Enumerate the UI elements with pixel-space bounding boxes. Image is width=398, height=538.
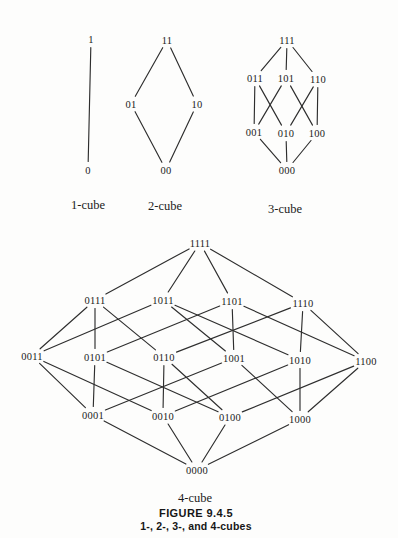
edge-1000-0000 [208, 425, 288, 465]
edge-1111-1110 [211, 249, 293, 297]
graph-1-cube: 101-cube [71, 34, 105, 212]
graph-2-cube: 110110002-cube [126, 35, 203, 213]
node-2-cube-10: 10 [192, 99, 203, 110]
edge-1011-0011 [44, 305, 151, 351]
edge-11-10 [171, 48, 194, 96]
node-4-cube-1000: 1000 [289, 414, 311, 425]
edge-1011-1001 [172, 307, 226, 351]
edge-11-01 [135, 48, 162, 97]
edge-10-00 [170, 112, 194, 162]
edge-011-001 [254, 87, 255, 124]
figure-title: 1-, 2-, 3-, and 4-cubes [0, 520, 395, 532]
node-4-cube-1111: 1111 [190, 238, 211, 249]
node-3-cube-011: 011 [247, 73, 263, 84]
edge-110-100 [317, 88, 318, 125]
figure-caption: FIGURE 9.4.5 1-, 2-, 3-, and 4-cubes [0, 507, 395, 532]
node-2-cube-00: 00 [161, 165, 172, 176]
node-3-cube-000: 000 [279, 165, 295, 176]
edge-01-00 [135, 112, 162, 163]
node-4-cube-1001: 1001 [223, 353, 245, 364]
node-4-cube-1010: 1010 [289, 355, 311, 366]
node-4-cube-0111: 0111 [84, 295, 105, 306]
edge-1001-1000 [242, 365, 292, 411]
edge-1101-1100 [244, 306, 354, 355]
edge-0101-0001 [93, 366, 94, 407]
node-3-cube-101: 101 [278, 73, 294, 84]
edge-0100-0000 [202, 425, 225, 462]
edge-1010-0010 [175, 365, 287, 411]
edge-1111-1011 [168, 251, 195, 292]
edge-111-011 [261, 47, 281, 70]
node-4-cube-0010: 0010 [152, 411, 174, 422]
edge-0011-0010 [44, 361, 151, 410]
node-3-cube-100: 100 [309, 128, 325, 139]
edge-010-000 [286, 142, 287, 162]
node-3-cube-001: 001 [246, 127, 262, 138]
node-2-cube-11: 11 [162, 35, 173, 46]
graph-label-2-cube: 2-cube [148, 199, 182, 213]
edge-1111-0111 [106, 249, 189, 294]
graph-label-3-cube: 3-cube [268, 202, 302, 216]
graph-3-cube: 1110111011100010101000003-cube [246, 35, 326, 216]
node-4-cube-0110: 0110 [153, 352, 174, 363]
node-4-cube-0001: 0001 [82, 410, 104, 421]
node-4-cube-0101: 0101 [84, 352, 106, 363]
edge-1-0 [88, 48, 91, 162]
graph-label-1-cube: 1-cube [71, 198, 105, 212]
edge-100-000 [293, 141, 311, 163]
graph-4-cube: 1111011110111101111000110101011010011010… [21, 238, 376, 505]
node-4-cube-0100: 0100 [219, 412, 241, 423]
node-1-cube-0: 0 [85, 165, 90, 176]
node-4-cube-1011: 1011 [152, 295, 173, 306]
node-3-cube-111: 111 [279, 35, 295, 46]
node-4-cube-1101: 1101 [221, 296, 242, 307]
hasse-diagrams-canvas: 101-cube110110002-cube111011101110001010… [0, 0, 398, 538]
edge-1011-1010 [175, 305, 288, 354]
node-4-cube-1100: 1100 [355, 356, 376, 367]
node-3-cube-110: 110 [310, 74, 326, 85]
edge-1100-0100 [242, 366, 353, 412]
edge-111-110 [293, 48, 312, 72]
node-4-cube-1110: 1110 [292, 298, 313, 309]
textbook-figure-page: 101-cube110110002-cube111011101110001010… [0, 0, 398, 538]
node-3-cube-010: 010 [278, 128, 294, 139]
node-2-cube-01: 01 [126, 99, 137, 110]
figure-number: FIGURE 9.4.5 [0, 507, 395, 519]
edge-1101-0101 [107, 306, 219, 352]
edge-0001-0000 [104, 421, 186, 464]
node-1-cube-1: 1 [88, 34, 93, 45]
node-4-cube-0000: 0000 [186, 465, 208, 476]
edge-111-101 [286, 49, 287, 70]
edge-001-000 [260, 139, 280, 162]
node-4-cube-0011: 0011 [21, 351, 42, 362]
graph-label-4-cube: 4-cube [178, 491, 212, 505]
